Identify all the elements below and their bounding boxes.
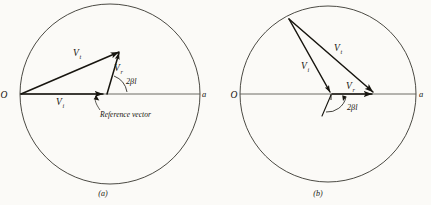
panel-b-angle-label: 2βl — [347, 103, 358, 112]
panel-a-label-vt-sub: t — [80, 53, 82, 60]
panel-a-label-vr-sub: r — [121, 68, 124, 75]
panel-b-axis-end-label: a — [419, 89, 423, 99]
panel-b-vector-vi — [289, 19, 330, 92]
panel-a: O a V t V i V r 2βl Reference vector (a) — [1, 4, 207, 198]
figure-container: O a V t V i V r 2βl Reference vector (a) — [0, 0, 431, 205]
panel-b-label-vi: V i — [301, 61, 310, 73]
panel-b-caption: (b) — [313, 189, 323, 198]
panel-b-label-vt-sub: t — [341, 48, 343, 55]
panel-a-vector-vt — [21, 52, 119, 94]
panel-a-vector-vr — [107, 53, 119, 94]
panel-a-caption: (a) — [98, 189, 108, 198]
panel-b-label-vt: V t — [334, 43, 343, 55]
panel-b-label-vr: V r — [346, 81, 356, 93]
vector-diagram-svg: O a V t V i V r 2βl Reference vector (a) — [0, 0, 431, 205]
panel-a-label-vi: V i — [56, 97, 65, 109]
panel-b-label-vi-sub: i — [308, 66, 310, 73]
panel-a-reference-note: Reference vector — [99, 110, 151, 119]
panel-b-origin-label: O — [231, 90, 238, 100]
panel-b: O a V t V i V r 2βl (b) — [231, 6, 424, 198]
panel-b-vector-vt — [289, 19, 373, 92]
panel-a-axis-end-label: a — [202, 89, 206, 99]
panel-a-label-vt: V t — [73, 48, 82, 60]
panel-a-label-vi-sub: i — [63, 102, 65, 109]
panel-a-angle-label: 2βl — [126, 77, 137, 86]
panel-a-label-vr: V r — [114, 63, 124, 75]
panel-a-origin-label: O — [1, 90, 8, 100]
panel-b-angle-leg — [322, 95, 331, 116]
panel-a-reference-arrowhead — [94, 95, 100, 100]
panel-b-label-vr-sub: r — [353, 86, 356, 93]
